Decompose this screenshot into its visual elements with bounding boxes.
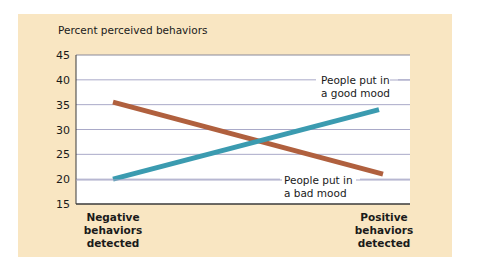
category-label-negative: Negative behaviors detected bbox=[80, 211, 146, 250]
annotation-good-line2: a good mood bbox=[321, 87, 390, 99]
annotation-good-line1: People put in bbox=[321, 74, 390, 86]
y-tick-label: 35 bbox=[56, 99, 70, 112]
category-label-positive: Positive behaviors detected bbox=[348, 211, 420, 250]
y-tick-label: 15 bbox=[56, 198, 70, 211]
y-tick-label: 20 bbox=[56, 173, 70, 186]
y-tick-label: 45 bbox=[56, 49, 70, 62]
y-tick-label: 25 bbox=[56, 148, 70, 161]
annotation-bad-line1: People put in bbox=[284, 174, 353, 186]
y-tick-label: 40 bbox=[56, 74, 70, 87]
y-tick-label: 30 bbox=[56, 124, 70, 137]
annotation-bad-line2: a bad mood bbox=[284, 187, 347, 199]
